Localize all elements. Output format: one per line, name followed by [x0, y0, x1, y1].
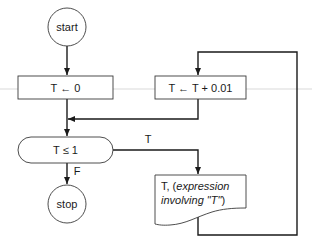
stop-label: stop	[57, 198, 78, 210]
output-line-2-plain: )	[221, 194, 225, 206]
node-start: start	[48, 8, 86, 46]
output-line-2: involving "T")	[161, 194, 225, 206]
increment-label: T ← T + 0.01	[169, 82, 233, 94]
edge-decision-true-to-output	[113, 150, 198, 174]
start-label: start	[56, 21, 77, 33]
output-line-1: T, (expression	[161, 180, 229, 192]
flowchart-svg: start T ← 0 T ← T + 0.01 T ≤ 1 T F T, (e…	[0, 0, 312, 248]
output-line-1-plain: T, (	[161, 180, 177, 192]
edge-increment-to-merge	[68, 99, 198, 119]
node-init: T ← 0	[18, 76, 113, 99]
output-line-2-italic: involving "T"	[161, 194, 222, 206]
node-increment: T ← T + 0.01	[155, 76, 246, 99]
init-label: T ← 0	[51, 82, 81, 94]
false-branch-label: F	[74, 165, 81, 177]
node-output: T, (expression involving "T")	[155, 175, 246, 225]
decision-label: T ≤ 1	[53, 144, 78, 156]
true-branch-label: T	[145, 133, 152, 145]
node-decision: T ≤ 1	[18, 137, 113, 163]
node-stop: stop	[48, 185, 86, 223]
output-line-1-italic: expression	[176, 180, 229, 192]
flowchart-canvas: start T ← 0 T ← T + 0.01 T ≤ 1 T F T, (e…	[0, 0, 312, 248]
